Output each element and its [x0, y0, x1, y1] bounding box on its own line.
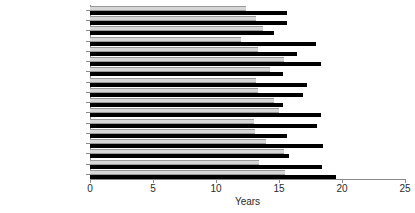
bar-group: Spain: [0, 138, 415, 148]
x-tick-label: 20: [336, 183, 347, 194]
bar-group: Belgium: [0, 15, 415, 25]
bar-group: Sweden: [0, 148, 415, 158]
bar-group: [0, 169, 415, 179]
x-tick-label: 0: [87, 183, 93, 194]
bar-chart: AustriaBelgiumBulgariaCzech RepublicDenm…: [0, 0, 415, 213]
x-tick-label: 15: [273, 183, 284, 194]
bar-group: Denmark: [0, 46, 415, 56]
bar-group: France: [0, 66, 415, 76]
bar-group: Netherlands: [0, 107, 415, 117]
bar-group: Finland: [0, 56, 415, 66]
x-axis-title: Years: [90, 196, 405, 207]
bar-group: Italy: [0, 97, 415, 107]
bar-group: Iceland: [0, 87, 415, 97]
bar-group: Slovak Republic: [0, 128, 415, 138]
bar-group: Bulgaria: [0, 25, 415, 35]
x-axis-line: [90, 179, 405, 180]
bar-group: Hungary: [0, 77, 415, 87]
x-tick-label: 10: [210, 183, 221, 194]
bar-group: Austria: [0, 5, 415, 15]
bar-dark: [90, 175, 336, 179]
x-tick-label: 5: [150, 183, 156, 194]
bar-group: Switzerland: [0, 159, 415, 169]
bar-group: Norway: [0, 118, 415, 128]
bar-group: Czech Republic: [0, 36, 415, 46]
x-tick-label: 25: [399, 183, 410, 194]
